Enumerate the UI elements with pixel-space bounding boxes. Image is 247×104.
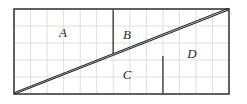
missing-square-figure: A B C D [0, 0, 247, 104]
piece-label-c: C [123, 67, 132, 82]
piece-label-a: A [58, 25, 67, 40]
figure-canvas: A B C D [0, 0, 247, 104]
piece-label-d: D [186, 46, 197, 61]
piece-label-b: B [123, 27, 131, 42]
